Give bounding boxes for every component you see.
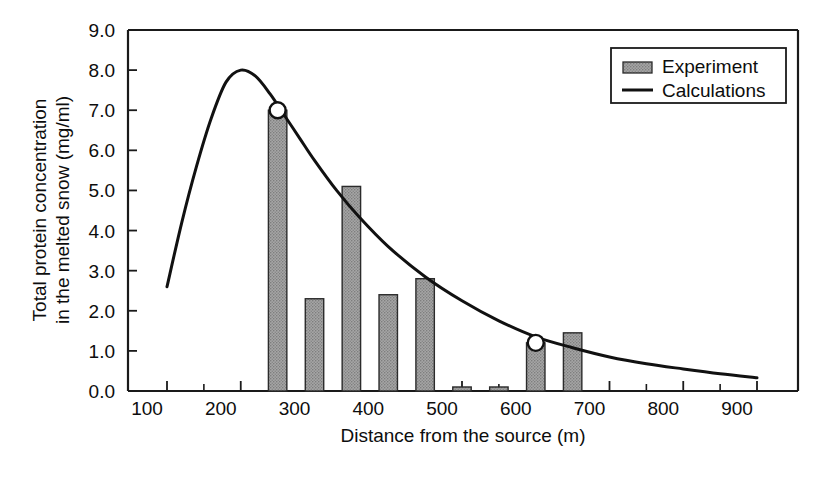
y-axis-title-line1: Total protein concentration <box>29 99 50 322</box>
bar <box>563 333 581 391</box>
x-tick-label: 500 <box>426 398 458 419</box>
x-tick-label: 400 <box>352 398 384 419</box>
y-tick-label: 7.0 <box>89 100 115 121</box>
x-tick-label: 200 <box>205 398 237 419</box>
y-tick-label: 6.0 <box>89 140 115 161</box>
legend-label-calculations: Calculations <box>662 80 766 101</box>
x-tick-label: 300 <box>279 398 311 419</box>
x-axis-title: Distance from the source (m) <box>341 425 586 446</box>
y-tick-label: 4.0 <box>89 221 115 242</box>
x-tick-label: 900 <box>721 398 753 419</box>
y-tick-label: 2.0 <box>89 301 115 322</box>
bar <box>268 110 286 391</box>
x-tick-label: 100 <box>131 398 163 419</box>
chart-legend: Experiment Calculations <box>611 48 786 103</box>
bar <box>416 279 434 391</box>
y-axis-title-line2: in the melted snow (mg/ml) <box>52 96 73 324</box>
y-tick-label: 0.0 <box>89 381 115 402</box>
marker-open-circle <box>528 335 544 351</box>
y-tick-label: 1.0 <box>89 341 115 362</box>
y-tick-label: 5.0 <box>89 180 115 201</box>
bar <box>490 387 508 391</box>
chart-figure: 0.01.02.03.04.05.06.07.08.09.0 100200300… <box>0 0 825 480</box>
y-tick-label: 8.0 <box>89 60 115 81</box>
marker-open-circle <box>270 102 286 118</box>
x-tick-label: 800 <box>647 398 679 419</box>
bar <box>453 387 471 391</box>
x-tick-label: 700 <box>574 398 606 419</box>
protein-concentration-chart: 0.01.02.03.04.05.06.07.08.09.0 100200300… <box>0 0 825 480</box>
y-tick-label: 3.0 <box>89 261 115 282</box>
bar <box>379 295 397 391</box>
legend-label-experiment: Experiment <box>662 56 759 77</box>
y-tick-label: 9.0 <box>89 20 115 41</box>
legend-swatch-experiment <box>623 62 652 73</box>
bar <box>305 299 323 391</box>
x-tick-label: 600 <box>500 398 532 419</box>
x-axis-tick-labels: 100200300400500600700800900 <box>131 398 753 419</box>
